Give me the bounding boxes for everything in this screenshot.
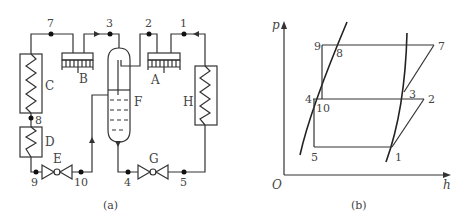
point-label-3: 3 (409, 88, 416, 101)
saturated-vapor-line (386, 33, 407, 162)
point-label-5: 5 (311, 151, 318, 164)
component-h (195, 66, 217, 125)
point-label-10: 10 (316, 102, 330, 115)
label-g: G (149, 152, 159, 166)
component-f (108, 48, 130, 142)
node-1 (182, 32, 187, 37)
pipe-b-to-f (84, 34, 119, 53)
origin-label: O (272, 178, 282, 192)
node-label-2: 2 (145, 17, 152, 30)
label-a: A (150, 73, 160, 87)
node-10 (79, 170, 84, 175)
line-3-7 (404, 45, 434, 92)
point-label-8: 8 (336, 47, 343, 60)
flow-arrow-icon (94, 31, 100, 37)
panel-b-ph-diagram: p O h 9 8 7 4 10 3 2 5 1 (b) (272, 18, 451, 212)
valve-e (42, 165, 72, 179)
node-7 (49, 32, 54, 37)
node-label-8: 8 (35, 114, 42, 127)
label-b: B (79, 72, 88, 86)
node-3 (108, 32, 113, 37)
point-label-9: 9 (314, 40, 321, 53)
pipe-g-to-h (168, 125, 205, 172)
caption-a: (a) (103, 199, 118, 212)
pipe-e-to-f (72, 95, 108, 172)
component-c (20, 54, 42, 113)
panel-a-schematic: B A C D E (20, 17, 217, 212)
valve-g (138, 165, 168, 179)
node-label-10: 10 (74, 176, 88, 189)
y-axis-label: p (272, 18, 280, 32)
node-8 (29, 116, 34, 121)
pipe-c-to-b (31, 34, 73, 54)
node-label-4: 4 (124, 176, 131, 189)
node-2 (147, 32, 152, 37)
component-d (20, 127, 42, 157)
point-label-4: 4 (305, 93, 312, 106)
node-label-1: 1 (180, 17, 187, 30)
saturated-liquid-line (300, 22, 347, 155)
component-b (62, 53, 93, 73)
point-label-7: 7 (438, 40, 445, 53)
flow-arrow-icon (115, 141, 121, 147)
flow-arrow-icon (193, 31, 199, 37)
node-label-9: 9 (31, 176, 38, 189)
label-h: H (183, 95, 193, 109)
caption-b: (b) (351, 199, 367, 212)
component-a (148, 53, 180, 73)
node-label-3: 3 (106, 17, 113, 30)
label-f: F (134, 95, 142, 109)
arrow-up-icon (281, 21, 287, 29)
point-label-2: 2 (428, 93, 435, 106)
node-4 (126, 170, 131, 175)
flow-arrow-icon (89, 137, 95, 143)
label-d: D (45, 135, 55, 149)
pipe-f-to-g (118, 142, 138, 172)
point-label-1: 1 (395, 151, 402, 164)
label-e: E (53, 152, 62, 166)
node-5 (182, 170, 187, 175)
node-label-7: 7 (47, 17, 54, 30)
node-label-5: 5 (180, 176, 187, 189)
x-axis-label: h (443, 178, 451, 192)
node-9 (34, 170, 39, 175)
label-c: C (45, 79, 54, 93)
